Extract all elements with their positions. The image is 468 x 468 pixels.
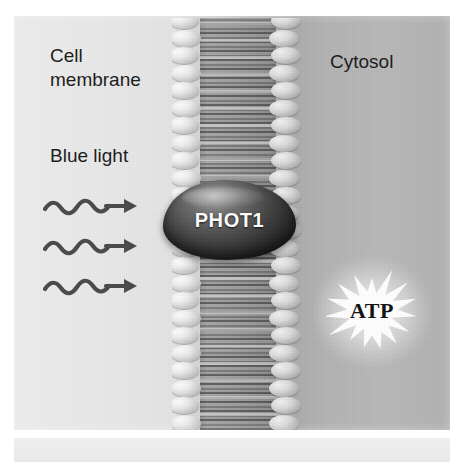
lipid-head: [269, 310, 299, 327]
label-cytosol: Cytosol: [330, 50, 393, 74]
figure-container: PHOT1 ATP: [0, 0, 468, 468]
lipid-head: [271, 327, 301, 344]
lipid-head: [172, 345, 201, 362]
lipid-head: [172, 135, 201, 152]
lipid-head: [269, 100, 299, 117]
lipid-head: [172, 18, 199, 29]
wave-arrow-icon-1: [42, 194, 146, 220]
phot1-label: PHOT1: [163, 209, 296, 232]
lipid-head: [269, 415, 299, 431]
blue-light-arrows: [42, 194, 152, 310]
lipid-head: [172, 310, 201, 327]
lipid-head: [269, 275, 299, 292]
lipid-head: [172, 47, 199, 64]
lipid-head: [172, 117, 199, 134]
wave-arrow-icon-2: [42, 234, 146, 260]
label-cell-membrane: Cell membrane: [50, 44, 141, 92]
phot1-highlight: [182, 187, 264, 208]
lipid-head: [172, 65, 201, 82]
lipid-head: [269, 30, 299, 47]
lipid-head: [172, 275, 201, 292]
lipid-head: [172, 380, 201, 397]
lipid-head: [172, 30, 201, 47]
lipid-head: [172, 82, 199, 99]
lipid-head: [271, 18, 301, 29]
lipid-head: [172, 362, 199, 379]
lipid-head: [172, 292, 199, 309]
lipid-head: [172, 397, 199, 414]
lipid-head: [271, 82, 301, 99]
lipid-head: [271, 47, 301, 64]
lipid-head: [271, 152, 301, 169]
lipid-head: [172, 100, 201, 117]
lipid-head: [269, 65, 299, 82]
label-blue-light: Blue light: [50, 144, 128, 168]
wave-arrow-icon-3: [42, 274, 146, 300]
lipid-head: [269, 345, 299, 362]
lipid-head: [269, 135, 299, 152]
lipid-head: [269, 380, 299, 397]
atp-label: ATP: [320, 298, 424, 324]
phot1-protein: PHOT1: [163, 180, 296, 260]
lipid-head: [271, 292, 301, 309]
lipid-head: [172, 415, 201, 431]
illustration-panel: PHOT1 ATP: [14, 16, 450, 430]
lipid-head: [271, 117, 301, 134]
bottom-strip: [14, 438, 450, 462]
lipid-head: [172, 327, 199, 344]
lipid-head: [172, 152, 199, 169]
lipid-head: [271, 362, 301, 379]
atp-burst: ATP: [320, 264, 424, 360]
lipid-head: [271, 397, 301, 414]
